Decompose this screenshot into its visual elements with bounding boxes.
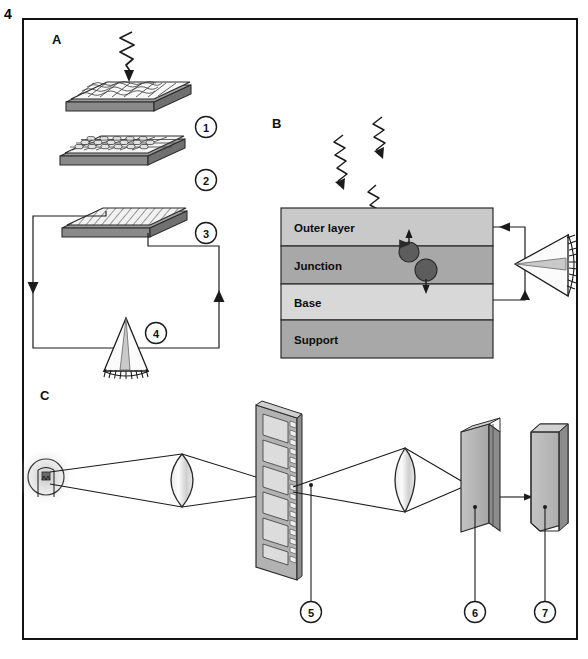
panel-b-band-support: Support xyxy=(281,320,493,358)
band-label-junction: Junction xyxy=(294,260,342,272)
callout-5-label: 5 xyxy=(308,607,314,619)
lead-arrow-up-icon xyxy=(520,290,530,300)
panel-c-sensor-block-icon xyxy=(461,418,500,532)
panel-a-callout-4: 4 xyxy=(146,323,167,344)
callout-1-label: 1 xyxy=(203,122,209,134)
panel-a-incident-photon-icon xyxy=(120,32,134,82)
panel-a-group: 1 xyxy=(28,32,225,379)
panel-c-projection-lens-icon xyxy=(395,448,415,512)
callout-6-label: 6 xyxy=(472,607,478,619)
band-label-base: Base xyxy=(294,297,322,309)
panel-b-photon-1-icon xyxy=(334,135,347,190)
panel-b-photon-2-icon xyxy=(373,117,385,159)
panel-c-condenser-lens-icon xyxy=(171,454,193,507)
panel-c-ray-bundle-right xyxy=(293,448,463,512)
panel-c-display-block-icon xyxy=(531,424,568,531)
panel-a-layer-1 xyxy=(66,82,191,112)
callout-7-label: 7 xyxy=(542,607,548,619)
panel-a-callout-1: 1 xyxy=(196,117,217,138)
panel-b-meter-icon xyxy=(515,234,577,296)
panel-a-callout-3: 3 xyxy=(196,223,217,244)
panel-a-layer-2 xyxy=(60,136,185,165)
panel-a-callout-2: 2 xyxy=(196,170,217,191)
figure-root: 4 A B C xyxy=(0,0,588,659)
panel-b-band-outer-layer: Outer layer xyxy=(281,208,493,246)
callout-4-label: 4 xyxy=(153,328,160,340)
panel-c-film-strip-icon xyxy=(256,401,302,580)
callout-2-label: 2 xyxy=(203,175,209,187)
circuit-arrow-up-icon xyxy=(214,290,225,302)
panel-c-ray-bundle-left xyxy=(50,454,288,507)
panel-b-band-junction: Junction xyxy=(281,246,493,284)
band-label-outer-layer: Outer layer xyxy=(294,222,355,234)
band-label-support: Support xyxy=(294,334,338,346)
panel-b-group: Outer layer Junction Base Support xyxy=(281,117,577,358)
figure-artwork: 1 xyxy=(0,0,588,659)
circuit-arrow-down-icon xyxy=(28,282,39,294)
panel-c-light-bulb-icon xyxy=(16,447,76,507)
callout-3-label: 3 xyxy=(203,228,209,240)
panel-c-callout-5: 5 xyxy=(301,483,322,623)
panel-a-layer-3 xyxy=(62,208,187,237)
panel-c-group: 5 6 7 xyxy=(16,401,568,623)
lead-arrow-left-icon xyxy=(499,223,510,232)
panel-b-band-base: Base xyxy=(281,284,493,320)
